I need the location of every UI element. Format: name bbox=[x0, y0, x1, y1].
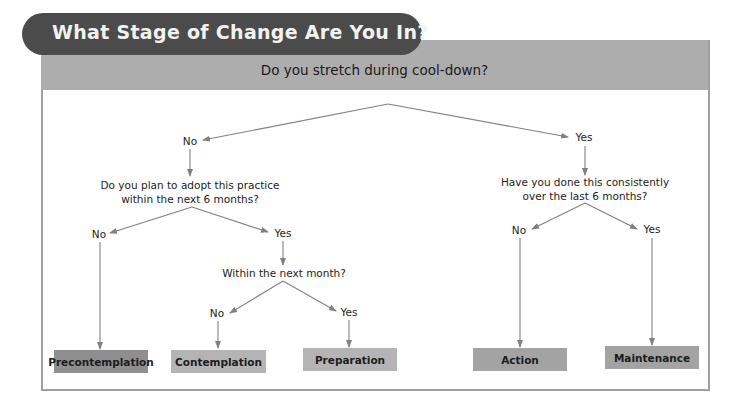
plan-no-label: No bbox=[92, 227, 106, 241]
arrow-month-yes bbox=[283, 281, 336, 311]
arrow-month-no bbox=[230, 281, 283, 313]
consistent-question-line1: Have you done this consistently bbox=[501, 175, 669, 189]
stage-maintenance: Maintenance bbox=[605, 346, 699, 369]
arrow-plan-no bbox=[110, 207, 192, 233]
month-yes-label: Yes bbox=[341, 305, 358, 319]
plan-question-line1: Do you plan to adopt this practice bbox=[101, 178, 280, 192]
root-no-label: No bbox=[183, 134, 197, 148]
arrow-root-no bbox=[203, 104, 388, 140]
consistent-no-label: No bbox=[512, 223, 526, 237]
consistent-yes-label: Yes bbox=[644, 222, 661, 236]
plan-question-line2: within the next 6 months? bbox=[101, 192, 280, 206]
stage-action: Action bbox=[473, 348, 567, 371]
arrow-root-yes bbox=[388, 104, 568, 137]
arrow-consistent-no bbox=[532, 203, 585, 229]
stage-precontemplation: Precontemplation bbox=[54, 350, 148, 373]
consistent-question: Have you done this consistently over the… bbox=[501, 175, 669, 203]
stage-preparation: Preparation bbox=[303, 348, 397, 371]
month-question: Within the next month? bbox=[222, 266, 346, 280]
month-no-label: No bbox=[210, 306, 224, 320]
plan-question: Do you plan to adopt this practice withi… bbox=[101, 178, 280, 206]
arrow-consistent-yes bbox=[585, 203, 637, 229]
plan-yes-label: Yes bbox=[275, 226, 292, 240]
root-yes-label: Yes bbox=[576, 130, 593, 144]
consistent-question-line2: over the last 6 months? bbox=[501, 189, 669, 203]
arrow-plan-yes bbox=[192, 207, 268, 232]
stage-contemplation: Contemplation bbox=[171, 350, 266, 373]
